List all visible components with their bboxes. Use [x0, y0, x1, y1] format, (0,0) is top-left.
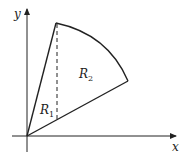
region-1-label: R1 [40, 104, 54, 119]
diagram-canvas [0, 0, 187, 159]
region-2-label: R2 [79, 68, 93, 83]
x-axis-label: x [172, 141, 179, 153]
y-axis-label: y [14, 8, 21, 20]
